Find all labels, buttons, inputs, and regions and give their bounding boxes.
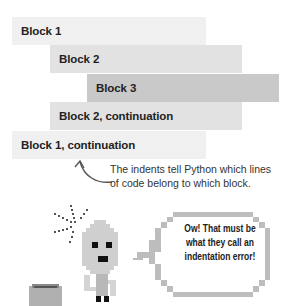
speech-line-3: indentation error! bbox=[182, 250, 259, 264]
block-1-continuation: Block 1, continuation bbox=[12, 131, 206, 159]
block-2-continuation: Block 2, continuation bbox=[50, 102, 242, 130]
speech-line-1: Ow! That must be bbox=[182, 222, 259, 236]
annotation-line-2: of code belong to which block. bbox=[110, 176, 271, 190]
speech-bubble-text: Ow! That must be what they call an inden… bbox=[182, 222, 259, 264]
box-icon bbox=[29, 284, 64, 306]
curved-arrow-icon bbox=[70, 156, 115, 196]
annotation-line-1: The indents tell Python which lines bbox=[110, 162, 271, 176]
pixel-robot-icon bbox=[80, 220, 122, 302]
block-1: Block 1 bbox=[12, 17, 206, 45]
speech-line-2: what they call an bbox=[182, 236, 259, 250]
block-2: Block 2 bbox=[50, 45, 242, 73]
block-3: Block 3 bbox=[87, 74, 279, 102]
annotation-text: The indents tell Python which lines of c… bbox=[110, 162, 271, 190]
